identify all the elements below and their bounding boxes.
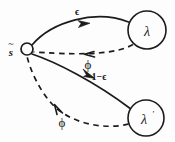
node-source xyxy=(21,43,33,55)
node-lambda-label: λ xyxy=(143,24,150,39)
node-lambda-prime-label: λ xyxy=(140,112,147,127)
edge-label-one-minus-epsilon: 1−ϵ xyxy=(92,71,108,82)
edge-label-phi-top: ϕ xyxy=(85,57,92,72)
edge-label-phi-bottom: ϕ xyxy=(59,115,66,130)
edge-lambda-to-source xyxy=(34,45,134,54)
edge-label-epsilon: ϵ xyxy=(75,6,80,17)
node-source-label: s xyxy=(8,46,13,58)
arrowhead-lambda-prime-to-source xyxy=(55,105,63,115)
arrowhead-source-to-lambda xyxy=(78,21,90,28)
edge-lambda-prime-to-source xyxy=(27,56,129,126)
transition-diagram: ~ s λ λ ′ ϵ ϕ 1−ϵ ϕ xyxy=(0,0,175,142)
diagram-canvas: ~ s λ λ ′ ϵ ϕ 1−ϵ ϕ xyxy=(0,0,175,142)
edge-source-to-lambda-prime xyxy=(32,54,130,108)
